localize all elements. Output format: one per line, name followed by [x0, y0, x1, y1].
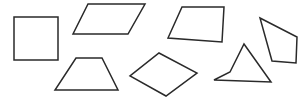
shapes-svg-canvas	[0, 0, 306, 108]
parallelogram-shape	[73, 4, 145, 34]
square-shape	[14, 17, 58, 60]
rhombus-shape	[130, 53, 197, 96]
isosceles-trapezoid-shape	[55, 58, 118, 90]
quadrilaterals-figure	[0, 0, 306, 108]
irregular-quadrilateral-shape	[260, 18, 297, 63]
trapezoid-right-shape	[168, 7, 224, 42]
concave-dart-shape	[214, 44, 271, 82]
